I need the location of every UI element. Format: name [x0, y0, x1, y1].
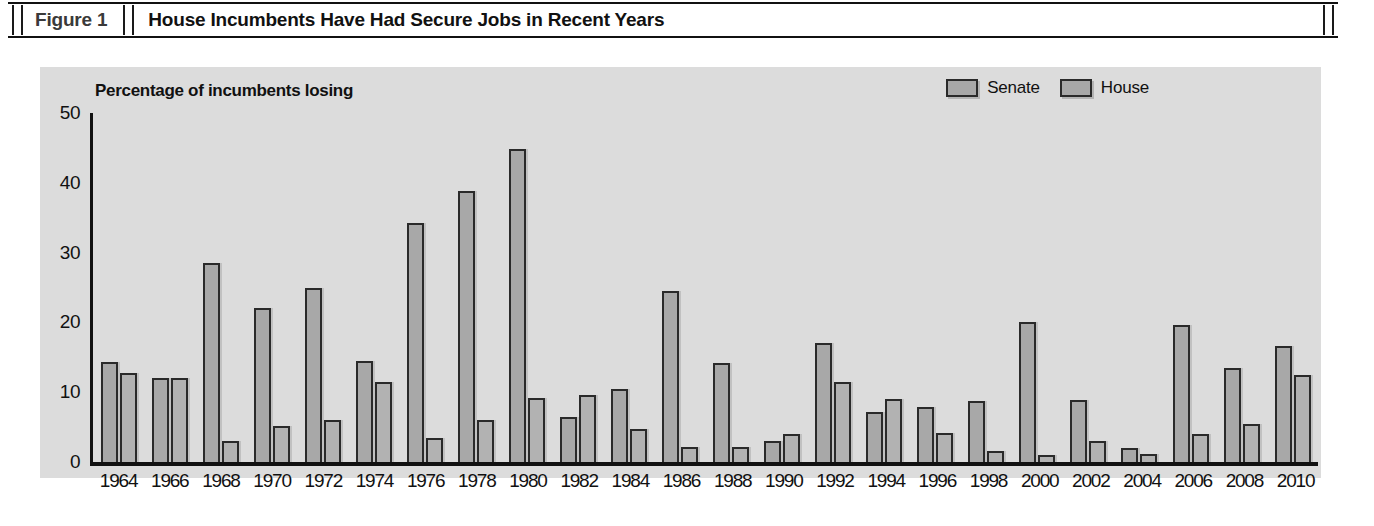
bar-senate-2002[interactable] [1070, 400, 1087, 462]
bar-group-1970 [246, 113, 297, 462]
bar-senate-1992[interactable] [815, 343, 832, 462]
bar-senate-1976[interactable] [407, 223, 424, 462]
bar-group-1966 [144, 113, 195, 462]
bar-senate-1990[interactable] [764, 441, 781, 462]
x-axis-tick-1994: 1994 [861, 470, 912, 492]
bar-group-1968 [195, 113, 246, 462]
bar-group-2002 [1063, 113, 1114, 462]
bar-group-1980 [501, 113, 552, 462]
bar-senate-1974[interactable] [356, 361, 373, 462]
bar-house-1982[interactable] [579, 395, 596, 462]
bar-senate-1988[interactable] [713, 363, 730, 462]
bar-senate-2004[interactable] [1121, 448, 1138, 462]
bar-group-1988 [706, 113, 757, 462]
y-axis-tick-50: 50 [60, 102, 80, 124]
bar-group-1994 [859, 113, 910, 462]
bar-senate-1978[interactable] [458, 191, 475, 462]
y-axis-tick-30: 30 [60, 242, 80, 264]
x-axis-tick-1980: 1980 [502, 470, 553, 492]
bar-groups [93, 113, 1318, 462]
bar-house-2010[interactable] [1294, 375, 1311, 462]
x-axis-tick-1970: 1970 [247, 470, 298, 492]
bar-house-1998[interactable] [987, 451, 1004, 462]
x-axis-tick-1964: 1964 [93, 470, 144, 492]
bar-group-1978 [450, 113, 501, 462]
x-axis-tick-2008: 2008 [1219, 470, 1270, 492]
bar-senate-1970[interactable] [254, 308, 271, 462]
legend-label-house: House [1101, 78, 1149, 98]
bar-senate-1986[interactable] [662, 291, 679, 462]
bar-house-2000[interactable] [1038, 455, 1055, 462]
bar-house-1992[interactable] [834, 382, 851, 462]
y-axis-tick-0: 0 [70, 451, 80, 473]
bar-group-1990 [757, 113, 808, 462]
bar-house-1978[interactable] [477, 420, 494, 462]
bar-house-1994[interactable] [885, 399, 902, 462]
bar-house-1972[interactable] [324, 420, 341, 462]
bar-group-1984 [603, 113, 654, 462]
bar-house-1988[interactable] [732, 447, 749, 462]
bar-senate-1982[interactable] [560, 417, 577, 462]
figure-number: Figure 1 [23, 9, 123, 31]
bar-group-2008 [1216, 113, 1267, 462]
bar-group-1986 [655, 113, 706, 462]
bar-senate-1998[interactable] [968, 401, 985, 462]
bar-house-2004[interactable] [1140, 454, 1157, 462]
bar-house-1980[interactable] [528, 398, 545, 462]
bar-group-1976 [399, 113, 450, 462]
bar-senate-1980[interactable] [509, 149, 526, 462]
bar-house-1966[interactable] [171, 378, 188, 462]
bar-group-1972 [297, 113, 348, 462]
bar-group-2004 [1114, 113, 1165, 462]
bar-house-1974[interactable] [375, 382, 392, 462]
bar-senate-1968[interactable] [203, 263, 220, 462]
x-axis-tick-1990: 1990 [758, 470, 809, 492]
x-axis-tick-1968: 1968 [195, 470, 246, 492]
x-axis-tick-1978: 1978 [451, 470, 502, 492]
chart-axis-title: Percentage of incumbents losing [95, 81, 353, 101]
bar-senate-2000[interactable] [1019, 322, 1036, 462]
y-axis-tick-20: 20 [60, 311, 80, 333]
bar-group-1996 [910, 113, 961, 462]
chart-panel: Percentage of incumbents losing Senate H… [40, 67, 1321, 478]
bar-group-1982 [552, 113, 603, 462]
bar-senate-2008[interactable] [1224, 368, 1241, 462]
bar-house-2002[interactable] [1089, 441, 1106, 462]
bar-house-1984[interactable] [630, 429, 647, 463]
bar-senate-1996[interactable] [917, 407, 934, 462]
x-axis-tick-1984: 1984 [605, 470, 656, 492]
bar-house-1990[interactable] [783, 434, 800, 462]
bar-house-1986[interactable] [681, 447, 698, 462]
x-axis-tick-1966: 1966 [144, 470, 195, 492]
x-axis-tick-2000: 2000 [1014, 470, 1065, 492]
x-axis-tick-1998: 1998 [963, 470, 1014, 492]
bar-senate-1966[interactable] [152, 378, 169, 462]
y-axis-tick-10: 10 [60, 381, 80, 403]
bar-senate-2006[interactable] [1173, 325, 1190, 462]
bar-group-2010 [1267, 113, 1318, 462]
x-axis-tick-2006: 2006 [1168, 470, 1219, 492]
legend-item-senate[interactable]: Senate [946, 78, 1040, 98]
bar-house-1976[interactable] [426, 438, 443, 462]
bar-house-1996[interactable] [936, 433, 953, 462]
bar-senate-2010[interactable] [1275, 346, 1292, 462]
bar-house-2006[interactable] [1192, 434, 1209, 462]
bar-senate-1984[interactable] [611, 389, 628, 462]
bar-senate-1964[interactable] [101, 362, 118, 462]
bar-senate-1994[interactable] [866, 412, 883, 462]
bar-senate-1972[interactable] [305, 288, 322, 463]
y-axis-tick-40: 40 [60, 172, 80, 194]
header-right-rule [1323, 5, 1334, 35]
header-divider-rule [123, 5, 134, 35]
bar-group-1992 [808, 113, 859, 462]
x-axis-line [90, 462, 1318, 466]
bar-house-1968[interactable] [222, 441, 239, 462]
bar-house-1964[interactable] [120, 373, 137, 462]
bar-group-1998 [961, 113, 1012, 462]
header-left-rule [12, 5, 23, 35]
legend-item-house[interactable]: House [1060, 78, 1149, 98]
bar-group-2000 [1012, 113, 1063, 462]
legend-swatch-senate [946, 79, 978, 97]
bar-house-1970[interactable] [273, 426, 290, 462]
bar-house-2008[interactable] [1243, 424, 1260, 462]
